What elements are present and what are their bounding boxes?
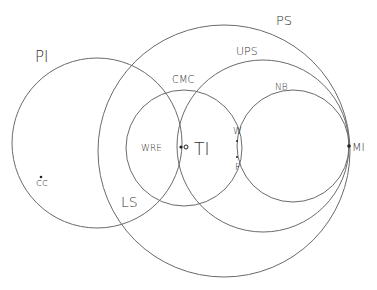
circle-label-pi: PI <box>35 48 48 66</box>
circles-group <box>12 25 350 277</box>
circle-ps <box>98 25 350 277</box>
region-label-cc: cc <box>36 176 48 189</box>
f-point <box>236 156 238 158</box>
circle-label-ps: PS <box>276 13 292 28</box>
circle-labels-group: PIPSCMCUPSNB <box>35 13 292 92</box>
region-label-w: W <box>233 126 242 136</box>
ti-boundary-point <box>179 145 182 148</box>
ti-point <box>184 145 188 149</box>
region-label-mi: MI <box>352 141 365 154</box>
circle-nb <box>237 90 349 202</box>
region-label-ls: LS <box>121 194 138 210</box>
region-label-ti: TI <box>194 139 209 159</box>
circle-label-nb: NB <box>275 82 288 92</box>
euler-diagram: PIPSCMCUPSNB LSWRETIWFMIcc <box>0 0 377 290</box>
mi-point <box>347 144 351 148</box>
circle-label-cmc: CMC <box>172 74 195 85</box>
circle-label-ups: UPS <box>236 45 258 58</box>
region-label-wre: WRE <box>141 143 162 153</box>
region-label-f: F <box>235 162 240 172</box>
w-point <box>236 140 238 142</box>
